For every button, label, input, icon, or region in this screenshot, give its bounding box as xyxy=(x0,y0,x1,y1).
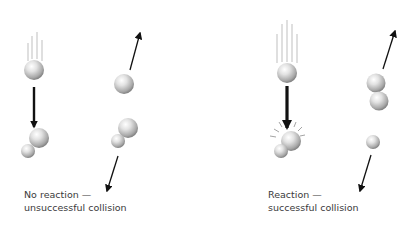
motion-lines xyxy=(277,20,297,63)
caption-reaction: Reaction — successful collision xyxy=(268,188,359,214)
incoming-molecule xyxy=(277,63,297,83)
released-atom xyxy=(366,135,380,149)
caption-title: No reaction — xyxy=(24,188,127,201)
target-molecule-large xyxy=(29,128,49,148)
unreacted-molecule-small xyxy=(111,134,125,148)
caption-title: Reaction — xyxy=(268,188,359,201)
caption-subtitle: successful collision xyxy=(268,201,359,214)
rebound-molecule xyxy=(114,74,134,94)
product-molecule-bottom xyxy=(370,92,389,111)
target-molecule-small xyxy=(274,144,288,158)
rebound-arrow xyxy=(130,33,140,70)
caption-no-reaction: No reaction — unsuccessful collision xyxy=(24,188,127,214)
departing-arrow xyxy=(107,156,118,191)
motion-lines xyxy=(28,32,42,61)
target-molecule-small xyxy=(21,144,35,158)
caption-subtitle: unsuccessful collision xyxy=(24,201,127,214)
panel-reaction xyxy=(270,20,395,191)
panel-no-reaction xyxy=(21,32,140,191)
departing-arrow xyxy=(360,155,371,191)
product-arrow xyxy=(383,31,395,69)
product-molecule-top xyxy=(367,74,386,93)
incoming-molecule xyxy=(24,60,44,80)
